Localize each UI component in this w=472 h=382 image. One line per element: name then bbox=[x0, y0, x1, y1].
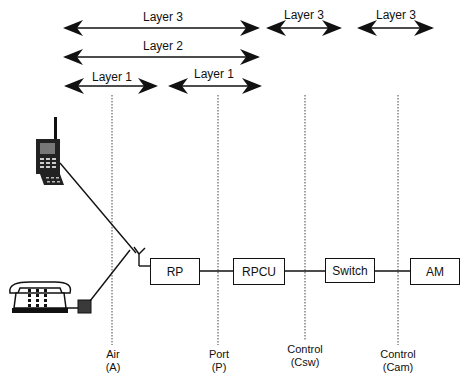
desk-telephone-icon bbox=[10, 282, 78, 313]
layer2-label: Layer 2 bbox=[143, 40, 183, 53]
fixed-termination-icon bbox=[78, 300, 91, 313]
layer1-label-port: Layer 1 bbox=[194, 68, 234, 81]
rp-node: RP bbox=[150, 258, 200, 285]
interface-label-air: Air (A) bbox=[78, 348, 148, 374]
am-node: AM bbox=[410, 258, 460, 285]
rpcu-node: RPCU bbox=[233, 258, 285, 285]
antenna-icon bbox=[134, 247, 150, 266]
diagram-graphics bbox=[0, 0, 472, 382]
interface-label-port: Port (P) bbox=[184, 348, 254, 374]
interface-label-control-csw: Control (Csw) bbox=[270, 343, 340, 369]
rp-label: RP bbox=[167, 265, 184, 279]
fixed-radio-link bbox=[90, 250, 130, 301]
radio-links bbox=[60, 163, 136, 301]
layer1-label-air: Layer 1 bbox=[92, 71, 132, 84]
layer3-label-3: Layer 3 bbox=[376, 9, 416, 22]
interface-label-control-cam: Control (Cam) bbox=[363, 348, 433, 374]
mobile-radio-link bbox=[60, 163, 136, 253]
mobile-phone-icon bbox=[36, 117, 64, 185]
am-label: AM bbox=[426, 265, 444, 279]
layer3-label-1: Layer 3 bbox=[143, 11, 183, 24]
interface-reference-lines bbox=[112, 95, 398, 345]
protocol-layer-diagram: Layer 3 Layer 3 Layer 3 Layer 2 Layer 1 … bbox=[0, 0, 472, 382]
rpcu-label: RPCU bbox=[242, 265, 276, 279]
switch-node: Switch bbox=[325, 258, 375, 283]
layer3-label-2: Layer 3 bbox=[284, 9, 324, 22]
switch-label: Switch bbox=[332, 264, 367, 278]
